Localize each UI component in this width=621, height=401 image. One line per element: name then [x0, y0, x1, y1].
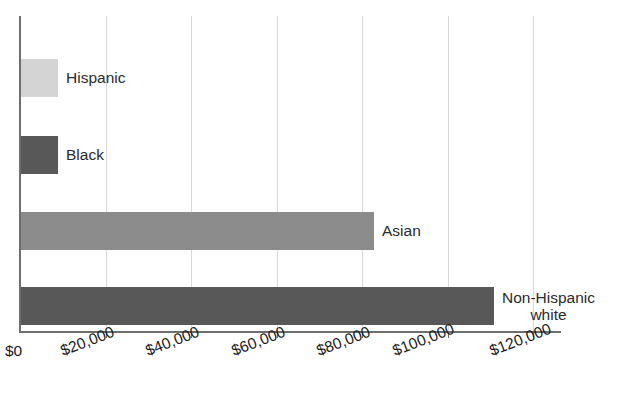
bar-label-non-hispanic-white: Non-Hispanic white [502, 289, 595, 324]
bar-label-black: Black [66, 146, 104, 164]
bar-row-hispanic: Hispanic [21, 59, 561, 97]
bar-row-non-hispanic-white: Non-Hispanic white [21, 287, 561, 325]
x-tick-label-0: $0 [5, 342, 22, 360]
bar-chart: Hispanic Black Asian Non-Hispanic white … [0, 0, 621, 401]
plot-area: Hispanic Black Asian Non-Hispanic white [21, 16, 561, 332]
bar-hispanic [21, 59, 58, 97]
bar-row-black: Black [21, 136, 561, 174]
bar-label-asian: Asian [382, 222, 421, 240]
bar-row-asian: Asian [21, 212, 561, 250]
bar-label-hispanic: Hispanic [66, 69, 125, 87]
bar-label-non-hispanic-white-line2: white [502, 306, 595, 323]
bar-black [21, 136, 58, 174]
bar-asian [21, 212, 374, 250]
bar-label-non-hispanic-white-line1: Non-Hispanic [502, 289, 595, 306]
bar-non-hispanic-white [21, 287, 494, 325]
y-axis-line [19, 16, 21, 333]
